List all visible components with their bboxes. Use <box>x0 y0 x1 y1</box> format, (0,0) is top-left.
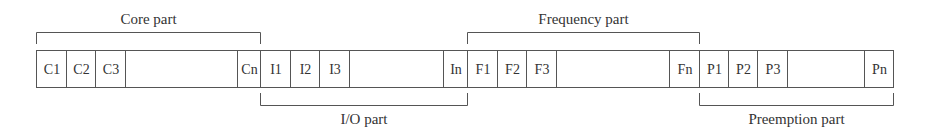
core-part-label: Core part <box>120 11 177 27</box>
cells-layer: C1C2C3CnI1I2I3InF1F2F3FnP1P2P3Pn <box>37 51 894 88</box>
cell-label: C1 <box>44 62 60 77</box>
preemption-bracket <box>700 93 894 106</box>
cell-box <box>350 51 444 88</box>
cell-i3: I3 <box>320 51 350 88</box>
cell-ellipsis-gap <box>350 51 444 88</box>
cell-label: P3 <box>766 62 781 77</box>
cell-label: C2 <box>73 62 89 77</box>
cell-p1: P1 <box>700 51 729 88</box>
cell-i2: I2 <box>291 51 320 88</box>
cell-ellipsis-gap <box>557 51 670 88</box>
cell-label: F2 <box>505 62 520 77</box>
cell-label: In <box>450 62 462 77</box>
cell-label: F1 <box>476 62 491 77</box>
cell-box <box>788 51 865 88</box>
cell-label: Cn <box>241 62 257 77</box>
cell-f2: F2 <box>498 51 527 88</box>
cell-f1: F1 <box>468 51 498 88</box>
preemption-part-label: Preemption part <box>748 111 845 127</box>
io-part-label: I/O part <box>340 111 388 127</box>
cell-ellipsis-gap <box>788 51 865 88</box>
cell-in: In <box>444 51 468 88</box>
cell-label: P2 <box>736 62 751 77</box>
cell-fn: Fn <box>670 51 700 88</box>
cell-f3: F3 <box>527 51 557 88</box>
cell-p2: P2 <box>729 51 758 88</box>
cell-p3: P3 <box>758 51 788 88</box>
cell-box <box>126 51 238 88</box>
cell-label: I2 <box>300 62 312 77</box>
cell-pn: Pn <box>865 51 894 88</box>
cell-i1: I1 <box>261 51 291 88</box>
group-core: C1C2C3Cn <box>37 51 261 88</box>
cell-c1: C1 <box>37 51 67 88</box>
cell-c3: C3 <box>96 51 126 88</box>
cell-label: Pn <box>872 62 887 77</box>
cell-c2: C2 <box>67 51 96 88</box>
group-frequency: F1F2F3Fn <box>468 51 700 88</box>
cell-label: I3 <box>329 62 341 77</box>
group-preemption: P1P2P3Pn <box>700 51 894 88</box>
cell-label: P1 <box>707 62 722 77</box>
group-io: I1I2I3In <box>261 51 468 88</box>
cell-label: Fn <box>678 62 693 77</box>
cell-ellipsis-gap <box>126 51 238 88</box>
segmented-field-diagram: C1C2C3CnI1I2I3InF1F2F3FnP1P2P3Pn Core pa… <box>0 0 929 133</box>
frequency-bracket <box>468 33 700 45</box>
frequency-part-label: Frequency part <box>538 11 629 27</box>
cell-box <box>557 51 670 88</box>
core-bracket <box>37 33 261 45</box>
cell-label: C3 <box>103 62 119 77</box>
cell-cn: Cn <box>238 51 261 88</box>
cell-label: F3 <box>535 62 550 77</box>
cell-label: I1 <box>270 62 282 77</box>
io-bracket <box>261 93 468 106</box>
